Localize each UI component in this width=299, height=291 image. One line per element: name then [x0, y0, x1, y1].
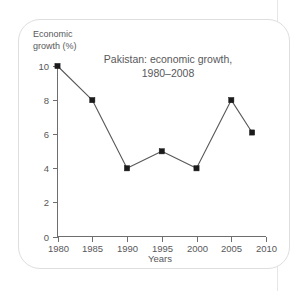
y-axis-label-line1: Economic — [33, 29, 73, 39]
data-point-marker — [159, 149, 164, 154]
series-line — [58, 66, 253, 168]
data-point-marker — [229, 98, 234, 103]
data-point-marker — [55, 63, 60, 68]
line-chart: Economic growth (%) Pakistan: economic g… — [0, 0, 299, 291]
data-point-marker — [124, 166, 129, 171]
x-tick-label: 2010 — [256, 243, 277, 254]
y-tick-label: 8 — [44, 95, 49, 106]
series-pakistan-growth — [55, 63, 255, 170]
x-axis-ticks: 1980198519901995200020052010 — [48, 237, 277, 255]
x-tick-label: 1990 — [117, 243, 138, 254]
y-tick-label: 2 — [44, 197, 49, 208]
y-tick-label: 0 — [44, 232, 49, 243]
x-tick-label: 1985 — [82, 243, 103, 254]
chart-title-line1: Pakistan: economic growth, — [104, 53, 232, 65]
data-point-marker — [90, 98, 95, 103]
y-tick-label: 10 — [38, 61, 49, 72]
x-tick-label: 2005 — [221, 243, 242, 254]
y-tick-label: 4 — [44, 163, 49, 174]
x-tick-label: 1980 — [48, 243, 69, 254]
y-tick-label: 6 — [44, 129, 49, 140]
chart-title-line2: 1980–2008 — [142, 67, 195, 79]
data-point-marker — [250, 130, 255, 135]
data-point-marker — [194, 166, 199, 171]
chart-svg: Economic growth (%) Pakistan: economic g… — [0, 0, 299, 291]
x-tick-label: 2000 — [187, 243, 208, 254]
x-axis-label: Years — [148, 253, 172, 264]
y-axis-ticks: 0246810 — [38, 61, 57, 243]
y-axis-label-line2: growth (%) — [33, 41, 77, 51]
